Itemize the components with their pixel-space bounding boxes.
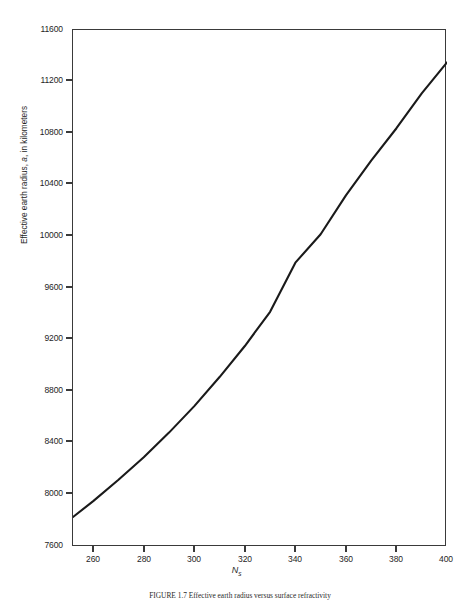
curve-svg	[73, 30, 447, 547]
y-tick: 9600	[44, 281, 72, 293]
y-tick: 8800	[44, 384, 72, 396]
x-tick-mark	[294, 546, 295, 552]
x-tick-label: 300	[174, 554, 214, 564]
y-tick: 10000	[40, 229, 72, 241]
y-axis-title-pre: Effective earth radius,	[19, 162, 29, 244]
figure-caption-text: FIGURE 1.7 Effective earth radius versus…	[149, 591, 331, 600]
x-axis-title: Ns	[0, 565, 473, 577]
y-tick-label: 8000	[44, 487, 63, 499]
x-tick: 380	[376, 546, 416, 564]
x-tick-label: 360	[326, 554, 366, 564]
y-axis-title-post: , in kilometers	[19, 106, 29, 157]
x-tick-label: 280	[124, 554, 164, 564]
x-tick: 360	[326, 546, 366, 564]
y-tick-label: 11200	[40, 74, 63, 86]
y-tick: 8400	[44, 435, 72, 447]
y-tick: 11200	[40, 74, 72, 86]
x-tick-mark	[244, 546, 245, 552]
x-tick: 260	[73, 546, 113, 564]
y-tick: 11600	[40, 23, 72, 35]
x-tick-mark	[445, 546, 446, 552]
x-tick-label: 340	[275, 554, 315, 564]
y-tick: 10800	[40, 126, 72, 138]
y-axis-ticks: 11600 11200 10800 10400 10000 9600 9200 …	[0, 0, 72, 560]
x-tick-label: 320	[225, 554, 265, 564]
x-tick-mark	[92, 546, 93, 552]
x-tick: 300	[174, 546, 214, 564]
figure-caption: FIGURE 1.7 Effective earth radius versus…	[60, 591, 420, 600]
y-tick-label: 9200	[44, 332, 63, 344]
data-curve-line	[73, 62, 447, 517]
y-tick-label: 8400	[44, 435, 63, 447]
figure-container: 11600 11200 10800 10400 10000 9600 9200 …	[0, 0, 473, 600]
y-tick: 9200	[44, 332, 72, 344]
y-axis-title: Effective earth radius, a, in kilometers	[19, 65, 29, 285]
x-tick-label: 380	[376, 554, 416, 564]
x-axis-title-subscript: s	[238, 570, 241, 577]
y-tick-label: 8800	[44, 384, 63, 396]
x-tick-mark	[345, 546, 346, 552]
x-tick-mark	[193, 546, 194, 552]
x-tick: 320	[225, 546, 265, 564]
y-tick: 10400	[40, 177, 72, 189]
x-tick-mark	[143, 546, 144, 552]
x-tick-mark	[395, 546, 396, 552]
x-tick: 400	[426, 546, 466, 564]
y-tick-label: 9600	[44, 281, 63, 293]
y-tick-label: 10400	[40, 177, 63, 189]
x-tick-label: 400	[426, 554, 466, 564]
x-tick-label: 260	[73, 554, 113, 564]
y-tick: 8000	[44, 487, 72, 499]
y-tick-label: 10000	[40, 229, 63, 241]
x-tick: 280	[124, 546, 164, 564]
plot-area	[72, 29, 446, 546]
y-tick-label: 10800	[40, 126, 63, 138]
x-tick: 340	[275, 546, 315, 564]
y-tick-label: 11600	[40, 23, 63, 35]
y-axis-title-symbol: a	[19, 157, 29, 162]
